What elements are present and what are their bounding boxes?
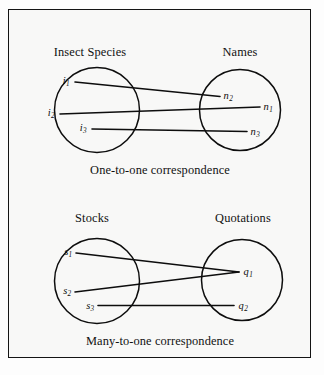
- node-sub-s3: 3: [91, 305, 95, 313]
- node-label-n2: n2: [224, 90, 233, 101]
- figure-root: Insect Species Names i1 i2 i3 n2 n1 n3 O…: [0, 0, 324, 375]
- node-base-q2: q: [239, 300, 244, 311]
- node-label-i2: i2: [48, 107, 55, 118]
- node-sub-q2: 2: [244, 305, 248, 313]
- node-label-s1: s1: [64, 246, 72, 257]
- node-sub-i1: 1: [66, 80, 70, 88]
- node-label-q1: q1: [244, 266, 253, 277]
- stocks-heading: Stocks: [75, 211, 109, 226]
- one-to-one-caption: One-to-one correspondence: [90, 163, 230, 178]
- node-label-s3: s3: [86, 300, 94, 311]
- node-label-s2: s2: [63, 285, 71, 296]
- node-label-i3: i3: [80, 122, 87, 133]
- node-sub-q1: 1: [249, 271, 253, 279]
- quotations-heading: Quotations: [215, 211, 271, 226]
- node-base-n3: n: [251, 126, 256, 137]
- node-sub-i3: 3: [83, 127, 87, 135]
- node-sub-s2: 2: [68, 290, 72, 298]
- node-sub-n2: 2: [229, 95, 233, 103]
- node-sub-i2: 2: [51, 112, 55, 120]
- figure-border-frame: [8, 9, 311, 358]
- node-label-i1: i1: [63, 75, 70, 86]
- node-sub-n3: 3: [256, 131, 260, 139]
- node-base-n2: n: [224, 90, 229, 101]
- node-label-n1: n1: [264, 101, 273, 112]
- node-sub-s1: 1: [69, 251, 73, 259]
- node-base-n1: n: [264, 101, 269, 112]
- node-label-n3: n3: [251, 126, 260, 137]
- node-base-q1: q: [244, 266, 249, 277]
- node-sub-n1: 1: [269, 106, 273, 114]
- insect-species-heading: Insect Species: [54, 45, 127, 60]
- names-heading: Names: [222, 45, 257, 60]
- node-label-q2: q2: [239, 300, 248, 311]
- many-to-one-caption: Many-to-one correspondence: [86, 334, 234, 349]
